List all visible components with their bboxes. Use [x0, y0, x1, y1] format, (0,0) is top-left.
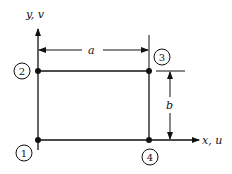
node-2-label: 2	[14, 63, 30, 79]
x-axis-label: x, u	[202, 134, 222, 147]
node-4-label: 4	[142, 149, 158, 165]
svg-text:3: 3	[159, 52, 165, 63]
node-1-dot	[35, 137, 41, 143]
svg-text:2: 2	[19, 66, 25, 77]
node-3-label: 3	[154, 49, 170, 65]
svg-text:1: 1	[21, 148, 27, 159]
dimension-a-label: a	[88, 44, 95, 57]
node-3-dot	[146, 68, 152, 74]
node-2-dot	[35, 68, 41, 74]
node-1-label: 1	[16, 145, 32, 161]
y-axis-label: y, v	[25, 8, 45, 21]
element-diagram: y, v x, u a b 1 2 3 4	[0, 0, 232, 174]
node-4-dot	[146, 137, 152, 143]
dimension-b-label: b	[166, 99, 173, 112]
svg-text:4: 4	[147, 152, 153, 163]
